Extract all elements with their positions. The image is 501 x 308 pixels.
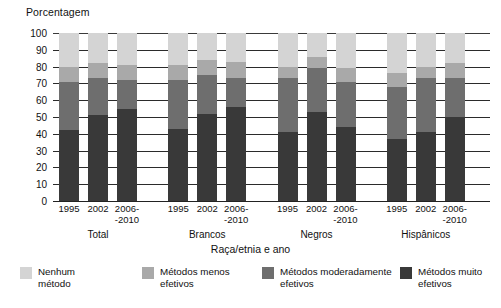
y-axis-tick-label: 60 bbox=[21, 95, 47, 106]
y-axis-tick-label: 80 bbox=[21, 61, 47, 72]
bar-segment bbox=[387, 73, 407, 86]
x-axis-tick-label: 2006--2010 bbox=[108, 203, 146, 225]
legend-swatch bbox=[20, 267, 32, 279]
legend-item[interactable]: Métodos menos efetivos bbox=[142, 266, 230, 289]
bar-group-label: Brancos bbox=[148, 229, 266, 240]
bar-segment bbox=[278, 132, 298, 201]
stacked-bar[interactable] bbox=[336, 33, 356, 201]
y-axis-tick-labels: 1009080706050403020100 bbox=[21, 33, 47, 201]
y-axis-tick-label: 50 bbox=[21, 112, 47, 123]
stacked-bar[interactable] bbox=[59, 33, 79, 201]
bar-segment bbox=[226, 33, 246, 62]
stacked-bar[interactable] bbox=[416, 33, 436, 201]
bar-segment bbox=[197, 33, 217, 60]
bar-group-label: Negros bbox=[258, 229, 376, 240]
bar-segment bbox=[307, 57, 327, 69]
bar-segment bbox=[59, 130, 79, 201]
stacked-bar[interactable] bbox=[226, 33, 246, 201]
legend-item[interactable]: Nenhum método bbox=[20, 266, 75, 289]
bar-segment bbox=[226, 62, 246, 79]
bar-segment bbox=[336, 68, 356, 81]
y-axis-tick-label: 90 bbox=[21, 44, 47, 55]
bar-segment bbox=[88, 115, 108, 201]
stacked-bar[interactable] bbox=[197, 33, 217, 201]
bar-segment bbox=[336, 33, 356, 68]
bar-segment bbox=[168, 65, 188, 80]
bar-segment bbox=[387, 33, 407, 73]
bar-segment bbox=[117, 109, 137, 201]
y-axis-tick-label: 70 bbox=[21, 78, 47, 89]
bar-segment bbox=[336, 82, 356, 127]
legend-swatch bbox=[142, 267, 154, 279]
x-axis-title: Raça/etnia e ano bbox=[0, 243, 501, 255]
bar-segment bbox=[416, 132, 436, 201]
y-axis-tick-label: 40 bbox=[21, 128, 47, 139]
bar-segment bbox=[387, 139, 407, 201]
bar-segment bbox=[88, 33, 108, 63]
bar-segment bbox=[197, 75, 217, 114]
bar-group bbox=[168, 33, 272, 201]
y-axis-tick-label: 100 bbox=[21, 28, 47, 39]
bar-segment bbox=[117, 80, 137, 109]
bar-segment bbox=[59, 67, 79, 82]
x-axis-tick-label: 2006--2010 bbox=[327, 203, 365, 225]
legend-label: Métodos menos efetivos bbox=[160, 266, 230, 289]
y-axis-tick-label: 20 bbox=[21, 162, 47, 173]
bar-segment bbox=[278, 67, 298, 79]
stacked-bar[interactable] bbox=[307, 33, 327, 201]
legend-swatch bbox=[262, 267, 274, 279]
bar-segment bbox=[416, 67, 436, 79]
bar-segment bbox=[168, 33, 188, 65]
legend-label: Nenhum método bbox=[38, 266, 75, 289]
bar-segment bbox=[278, 33, 298, 67]
bar-segment bbox=[387, 87, 407, 139]
stacked-bar[interactable] bbox=[88, 33, 108, 201]
stacked-bar[interactable] bbox=[445, 33, 465, 201]
bar-segment bbox=[59, 82, 79, 131]
bar-segment bbox=[445, 117, 465, 201]
legend-item[interactable]: Métodos moderadamente efetivos bbox=[262, 266, 392, 289]
y-axis-tick-label: 10 bbox=[21, 179, 47, 190]
legend-label: Métodos muito efetivos bbox=[418, 266, 482, 289]
bars-layer bbox=[53, 33, 490, 201]
bar-segment bbox=[59, 33, 79, 67]
legend-item[interactable]: Métodos muito efetivos bbox=[400, 266, 482, 289]
bar-segment bbox=[88, 78, 108, 115]
bar-segment bbox=[336, 127, 356, 201]
stacked-bar[interactable] bbox=[278, 33, 298, 201]
legend-swatch bbox=[400, 267, 412, 279]
bar-segment bbox=[307, 33, 327, 57]
bar-segment bbox=[445, 63, 465, 78]
bar-segment bbox=[117, 65, 137, 80]
bar-group-label: Total bbox=[39, 229, 157, 240]
bar-segment bbox=[445, 78, 465, 117]
bar-segment bbox=[168, 80, 188, 129]
y-axis-tick-label: 30 bbox=[21, 145, 47, 156]
bar-segment bbox=[307, 68, 327, 112]
bar-group bbox=[278, 33, 382, 201]
bar-segment bbox=[307, 112, 327, 201]
bar-segment bbox=[88, 63, 108, 78]
bar-segment bbox=[197, 60, 217, 75]
x-axis-tick-label: 2006--2010 bbox=[436, 203, 474, 225]
bar-segment bbox=[226, 78, 246, 107]
bar-segment bbox=[197, 114, 217, 201]
bar-group bbox=[59, 33, 163, 201]
bar-segment bbox=[416, 78, 436, 132]
bar-group bbox=[387, 33, 491, 201]
chart-legend: Nenhum métodoMétodos menos efetivosMétod… bbox=[0, 266, 501, 306]
y-axis-title: Porcentagem bbox=[26, 6, 90, 18]
bar-segment bbox=[278, 78, 298, 132]
stacked-bar[interactable] bbox=[168, 33, 188, 201]
bar-group-label: Hispânicos bbox=[367, 229, 485, 240]
stacked-bar-chart: Porcentagem 1009080706050403020100 19952… bbox=[0, 0, 501, 308]
bar-segment bbox=[416, 33, 436, 67]
bar-segment bbox=[226, 107, 246, 201]
legend-label: Métodos moderadamente efetivos bbox=[280, 266, 392, 289]
bar-segment bbox=[445, 33, 465, 63]
stacked-bar[interactable] bbox=[387, 33, 407, 201]
stacked-bar[interactable] bbox=[117, 33, 137, 201]
bar-segment bbox=[168, 129, 188, 201]
x-axis-tick-label: 2006--2010 bbox=[217, 203, 255, 225]
bar-segment bbox=[117, 33, 137, 65]
